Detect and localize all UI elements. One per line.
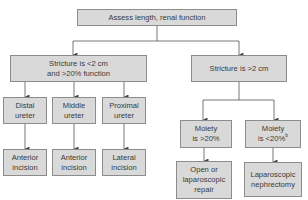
node-label-line: Lateral <box>112 153 135 163</box>
node-assess-length-renal-function: Assess length, renal function <box>77 9 237 26</box>
node-label-line: Open or <box>190 165 217 175</box>
node-moiety-high: Moiety is >20% <box>180 120 232 148</box>
node-label-line: Anterior <box>61 153 88 163</box>
footnote-marker: b <box>285 132 288 138</box>
node-label: Stricture is >2 cm <box>210 64 269 74</box>
node-label-line: nephrectomy <box>251 180 295 190</box>
node-label-line: incision <box>12 163 37 173</box>
node-label-line: Laparoscopic <box>250 170 295 180</box>
node-stricture-long: Stricture is >2 cm <box>191 55 287 82</box>
node-stricture-short: Stricture is <2 cm and >20% function <box>10 55 147 82</box>
node-label: Assess length, renal function <box>108 13 205 23</box>
node-moiety-low-outcome: Laparoscopic nephrectomy <box>244 162 302 197</box>
node-label-line: Middle <box>63 101 85 111</box>
node-label-line: Proximal <box>109 101 139 111</box>
node-moiety-low: Moiety is <20%b <box>245 120 301 148</box>
node-label-line: incision <box>111 163 136 173</box>
node-label-line: repair <box>194 185 213 195</box>
node-label-line: ureter <box>15 111 35 121</box>
node-label-line-with-footnote: is <20%b <box>258 134 288 144</box>
node-middle-outcome: Anterior incision <box>52 149 96 176</box>
node-distal-outcome: Anterior incision <box>3 149 47 176</box>
node-proximal-ureter: Proximal ureter <box>102 97 146 124</box>
node-label-line: Anterior <box>12 153 39 163</box>
node-label-line: ureter <box>64 111 84 121</box>
node-label-line: Stricture is <2 cm <box>49 59 108 69</box>
node-label-line: Distal <box>16 101 35 111</box>
node-label-line: Moiety <box>195 124 217 134</box>
node-label-line: ureter <box>114 111 134 121</box>
node-label-line: and >20% function <box>47 69 110 79</box>
node-distal-ureter: Distal ureter <box>3 97 47 124</box>
node-label-line: is >20% <box>192 134 219 144</box>
node-label-line: laparoscopic <box>183 175 226 185</box>
node-label-line: incision <box>61 163 86 173</box>
node-moiety-high-outcome: Open or laparoscopic repair <box>176 161 232 199</box>
node-label-line: Moiety <box>262 124 284 134</box>
node-proximal-outcome: Lateral incision <box>102 149 146 176</box>
node-middle-ureter: Middle ureter <box>52 97 96 124</box>
node-label-line: is <20% <box>258 134 285 143</box>
